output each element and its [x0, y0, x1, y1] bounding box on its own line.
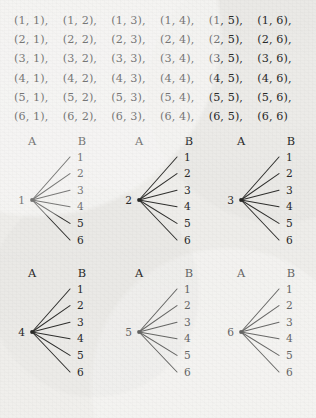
tree-leaf-label: 2	[184, 167, 191, 179]
tree-root-label: 5	[125, 326, 132, 338]
column-headers: A B	[3, 136, 108, 151]
tree-leaf-label: 5	[286, 349, 293, 361]
pair-cell: (4, 5),	[209, 73, 258, 84]
pair-cell: (6, 5),	[209, 111, 258, 122]
tree-root-label: 1	[18, 194, 25, 206]
tree-leaf-label: 4	[286, 200, 293, 212]
tree-root-label: 6	[227, 326, 234, 338]
tree-edge	[139, 289, 177, 332]
tree-leaf-label: 3	[184, 316, 191, 328]
tree-diagram: A B 1234561	[3, 136, 108, 260]
tree-graphic: 1234562	[110, 150, 215, 250]
tree-leaf-label: 6	[77, 234, 84, 246]
tree-leaf-label: 6	[184, 234, 191, 246]
pair-cell: (1, 1),	[14, 15, 63, 26]
table-row: (4, 1), (4, 2), (4, 3), (4, 4), (4, 5), …	[14, 69, 306, 88]
tree-leaf-label: 3	[77, 316, 84, 328]
tree-edge	[241, 190, 279, 200]
pair-cell: (5, 3),	[111, 92, 160, 103]
pair-cell: (2, 2),	[63, 34, 112, 45]
table-row: (3, 1), (3, 2), (3, 3), (3, 4), (3, 5), …	[14, 49, 306, 68]
tree-edge	[32, 322, 70, 332]
tree-leaf-label: 3	[286, 184, 293, 196]
pair-cell: (3, 6),	[257, 53, 306, 64]
pair-cell: (3, 1),	[14, 53, 63, 64]
tree-diagram: A B 1234564	[3, 268, 108, 404]
pair-cell: (3, 3),	[111, 53, 160, 64]
table-row: (2, 1), (2, 2), (2, 3), (2, 4), (2, 5), …	[14, 30, 306, 49]
pair-cell: (5, 2),	[63, 92, 112, 103]
tree-edge	[32, 157, 70, 200]
column-header-b: B	[181, 268, 197, 279]
pair-cell: (6, 6)	[257, 111, 306, 122]
tree-leaf-label: 3	[286, 316, 293, 328]
column-headers: A B	[212, 268, 316, 283]
column-headers: A B	[110, 136, 215, 151]
tree-leaf-label: 6	[77, 366, 84, 378]
pair-cell: (6, 2),	[63, 111, 112, 122]
tree-leaf-label: 5	[77, 217, 84, 229]
tree-leaf-label: 1	[184, 151, 191, 163]
tree-diagram: A B 1234566	[212, 268, 316, 404]
pair-cell: (1, 2),	[63, 15, 112, 26]
tree-leaf-label: 2	[286, 299, 293, 311]
column-header-a: A	[131, 136, 147, 147]
tree-leaf-label: 1	[77, 283, 84, 295]
column-header-a: A	[24, 268, 40, 279]
tree-edge	[241, 289, 279, 332]
pair-cell: (2, 3),	[111, 34, 160, 45]
tree-root-node-dot	[239, 330, 243, 334]
tree-leaf-label: 1	[184, 283, 191, 295]
tree-leaf-label: 6	[286, 234, 293, 246]
tree-leaf-label: 4	[184, 332, 191, 344]
tree-leaf-label: 2	[77, 299, 84, 311]
tree-leaf-label: 1	[286, 151, 293, 163]
pair-cell: (3, 2),	[63, 53, 112, 64]
tree-band-top: A B 1234561 A B 1234562 A B 1234563	[0, 136, 316, 260]
pair-cell: (2, 4),	[160, 34, 209, 45]
tree-root-node-dot	[30, 198, 34, 202]
tree-edge	[241, 306, 279, 332]
table-row: (6, 1), (6, 2), (6, 3), (6, 4), (6, 5), …	[14, 107, 306, 126]
column-headers: A B	[110, 268, 215, 283]
tree-edge	[32, 190, 70, 200]
tree-graphic: 1234561	[3, 150, 108, 250]
table-row: (5, 1), (5, 2), (5, 3), (5, 4), (5, 5), …	[14, 88, 306, 107]
pair-cell: (3, 4),	[160, 53, 209, 64]
tree-edge	[241, 174, 279, 200]
tree-leaf-label: 1	[77, 151, 84, 163]
column-header-a: A	[24, 136, 40, 147]
column-headers: A B	[212, 136, 316, 151]
tree-root-label: 3	[227, 194, 234, 206]
tree-leaf-label: 6	[286, 366, 293, 378]
column-header-b: B	[74, 136, 90, 147]
tree-edge	[241, 322, 279, 332]
tree-diagram: A B 1234565	[110, 268, 215, 404]
tree-edge	[32, 289, 70, 332]
tree-graphic: 1234564	[3, 282, 108, 382]
pair-cell: (1, 5),	[209, 15, 258, 26]
tree-edge	[32, 306, 70, 332]
pair-cell: (2, 1),	[14, 34, 63, 45]
pair-cell: (4, 4),	[160, 73, 209, 84]
pair-cell: (1, 6),	[257, 15, 306, 26]
pair-cell: (1, 3),	[111, 15, 160, 26]
tree-band-bottom: A B 1234564 A B 1234565 A B 1234566	[0, 268, 316, 404]
tree-leaf-label: 1	[286, 283, 293, 295]
tree-edge	[139, 157, 177, 200]
column-headers: A B	[3, 268, 108, 283]
tree-graphic: 1234563	[212, 150, 316, 250]
tree-leaf-label: 3	[184, 184, 191, 196]
pair-cell: (4, 2),	[63, 73, 112, 84]
pair-cell: (4, 1),	[14, 73, 63, 84]
pair-cell: (6, 4),	[160, 111, 209, 122]
pair-cell: (3, 5),	[209, 53, 258, 64]
column-header-a: A	[233, 136, 249, 147]
tree-root-label: 4	[18, 326, 25, 338]
pair-cell: (5, 1),	[14, 92, 63, 103]
tree-edge	[139, 190, 177, 200]
pair-cell: (4, 3),	[111, 73, 160, 84]
tree-edge	[241, 157, 279, 200]
pair-cell: (5, 6),	[257, 92, 306, 103]
sample-space-pair-grid: (1, 1), (1, 2), (1, 3), (1, 4), (1, 5), …	[14, 11, 306, 126]
